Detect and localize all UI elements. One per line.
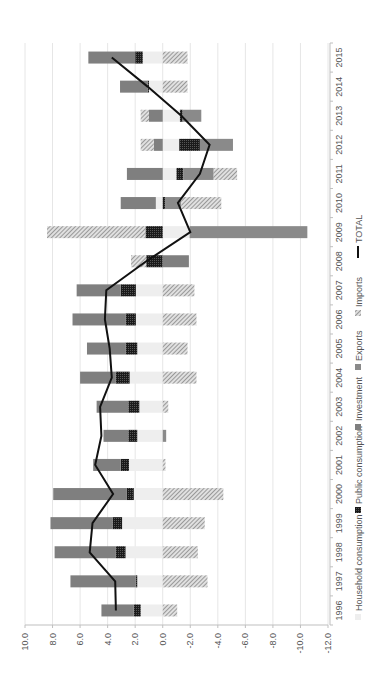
bar-segment-imports bbox=[163, 372, 197, 384]
legend-item-total: TOTAL bbox=[354, 215, 364, 258]
category-label: 2004 bbox=[334, 368, 344, 388]
bar-segment-investment bbox=[101, 604, 133, 616]
bar-segment-imports bbox=[214, 168, 237, 180]
exports-swatch-icon bbox=[355, 364, 361, 370]
bar-segment-public bbox=[116, 546, 126, 558]
bar-segment-public bbox=[128, 401, 139, 413]
category-label: 1998 bbox=[334, 542, 344, 562]
bar-segment-public bbox=[121, 459, 129, 471]
imports-swatch-icon bbox=[355, 310, 361, 316]
bar-segment-investment bbox=[163, 255, 189, 267]
category-label: 2005 bbox=[334, 339, 344, 359]
bar-segment-imports bbox=[141, 110, 149, 122]
bar-segment-public bbox=[146, 255, 163, 267]
value-tick-label: -8.0 bbox=[268, 633, 278, 649]
category-label: 2010 bbox=[334, 193, 344, 213]
bar-segment-imports bbox=[163, 575, 208, 587]
value-tick-label: 10.0 bbox=[20, 633, 30, 651]
legend-label: Investment bbox=[354, 376, 364, 421]
category-label: 2014 bbox=[334, 77, 344, 97]
bar-segment-public bbox=[126, 343, 138, 355]
bar-segment-household bbox=[143, 52, 163, 64]
category-label: 2013 bbox=[334, 106, 344, 126]
bar-segment-imports bbox=[163, 546, 198, 558]
bar-segment-household bbox=[137, 575, 162, 587]
bar-segment-imports bbox=[131, 255, 146, 267]
category-label: 1999 bbox=[334, 513, 344, 533]
category-label: 2002 bbox=[334, 426, 344, 446]
legend: Household consumptionPublic consumptionI… bbox=[354, 215, 364, 620]
bar-segment-investment bbox=[149, 110, 163, 122]
bar-segment-household bbox=[130, 372, 163, 384]
category-axis-labels: 1996199719981999200020012002200320042005… bbox=[334, 48, 344, 621]
bar-segment-household bbox=[137, 343, 162, 355]
bar-segment-public bbox=[136, 575, 137, 587]
total-line-swatch-icon bbox=[357, 246, 359, 258]
household-swatch-icon bbox=[355, 614, 361, 620]
bar-segment-public bbox=[126, 313, 136, 325]
bar-segment-imports bbox=[47, 226, 145, 238]
category-label: 2009 bbox=[334, 222, 344, 242]
bar-segment-household bbox=[139, 401, 162, 413]
bar-segment-household bbox=[137, 430, 162, 442]
value-tick-label: 2.0 bbox=[130, 633, 140, 646]
bar-segment-exports bbox=[183, 168, 213, 180]
bar-segment-imports bbox=[163, 81, 188, 93]
value-tick-label: 0.0 bbox=[158, 633, 168, 646]
bar-segment-imports bbox=[181, 197, 221, 209]
bar-segment-household bbox=[122, 517, 163, 529]
bar-segment-imports bbox=[163, 343, 188, 355]
bar-segment-investment bbox=[87, 343, 126, 355]
category-label: 2008 bbox=[334, 251, 344, 271]
category-label: 1996 bbox=[334, 600, 344, 620]
bar-segment-public bbox=[127, 488, 134, 500]
bar-segment-public bbox=[116, 372, 130, 384]
bar-segment-public bbox=[112, 517, 122, 529]
axes bbox=[25, 43, 333, 625]
bar-segment-public bbox=[135, 52, 143, 64]
legend-item-investment: Investment bbox=[354, 376, 364, 430]
value-tick-label: 6.0 bbox=[75, 633, 85, 646]
bar-segment-imports bbox=[163, 313, 197, 325]
bar-segment-public bbox=[177, 168, 184, 180]
category-label: 2006 bbox=[334, 309, 344, 329]
category-label: 2011 bbox=[334, 164, 344, 183]
bar-segment-investment bbox=[77, 284, 121, 296]
bar-segment-household bbox=[136, 284, 163, 296]
bar-segment-public bbox=[179, 139, 200, 151]
value-tick-label: 4.0 bbox=[103, 633, 113, 646]
bar-segment-investment bbox=[104, 430, 129, 442]
bar-segment-imports bbox=[163, 488, 224, 500]
bar-segment-imports bbox=[163, 284, 195, 296]
legend-item-imports: Imports bbox=[354, 276, 364, 316]
bar-segment-investment bbox=[121, 197, 156, 209]
value-tick-label: 8.0 bbox=[48, 633, 58, 646]
bar-segment-imports bbox=[141, 139, 154, 151]
category-label: 2012 bbox=[334, 135, 344, 155]
bar-segment-investment bbox=[55, 546, 116, 558]
category-label: 2015 bbox=[334, 48, 344, 68]
bar-segment-imports bbox=[163, 604, 177, 616]
bar-segment-imports bbox=[163, 52, 188, 64]
bar-segment-household bbox=[163, 139, 180, 151]
legend-item-household: Household consumption bbox=[354, 514, 364, 620]
legend-label: Public consumption bbox=[354, 426, 364, 504]
category-label: 2001 bbox=[334, 455, 344, 475]
bar-segment-exports bbox=[163, 430, 166, 442]
bar-segment-investment bbox=[127, 168, 163, 180]
investment-swatch-icon bbox=[355, 424, 361, 430]
bar-segment-imports bbox=[163, 401, 169, 413]
value-tick-label: -12.0 bbox=[323, 633, 333, 654]
value-tick-label: -4.0 bbox=[213, 633, 223, 649]
legend-label: Imports bbox=[354, 276, 364, 307]
legend-item-public: Public consumption bbox=[354, 426, 364, 513]
legend-label: Exports bbox=[354, 330, 364, 361]
value-tick-label: -10.0 bbox=[295, 633, 305, 654]
gridlines bbox=[25, 43, 328, 625]
bar-segment-investment bbox=[53, 488, 127, 500]
bar-segment-imports bbox=[163, 517, 205, 529]
value-axis-ticks: 10.08.06.04.02.00.0-2.0-4.0-6.0-8.0-10.0… bbox=[20, 625, 333, 654]
category-label: 2007 bbox=[334, 280, 344, 300]
bar-segment-household bbox=[126, 546, 163, 558]
category-label: 1997 bbox=[334, 571, 344, 591]
